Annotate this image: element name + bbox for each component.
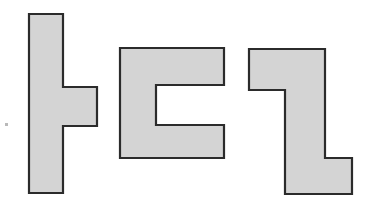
polyomino-figure [0, 0, 376, 209]
dust-speck-icon [5, 123, 8, 126]
figure-canvas [0, 0, 376, 209]
shape-t-shape-with-right-notch [120, 48, 224, 158]
shape-z-shape-step [249, 49, 352, 194]
shape-tall-bar-with-right-tab [29, 14, 97, 193]
